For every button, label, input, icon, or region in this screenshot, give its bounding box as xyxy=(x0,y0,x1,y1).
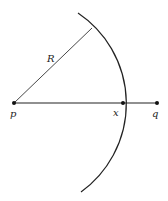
point-p xyxy=(12,101,16,105)
diagram-canvas: p x q R xyxy=(0,0,168,201)
label-x: x xyxy=(113,107,119,118)
point-x xyxy=(121,101,125,105)
label-radius: R xyxy=(46,53,55,64)
label-p: p xyxy=(10,108,17,119)
point-q xyxy=(155,101,159,105)
radius-line xyxy=(14,28,92,103)
label-q: q xyxy=(152,108,158,119)
